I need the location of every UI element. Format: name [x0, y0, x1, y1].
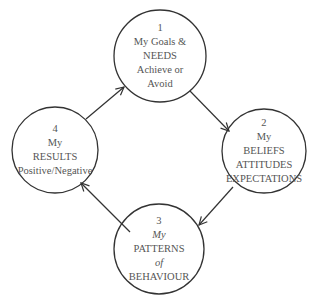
- arrows: [81, 87, 233, 232]
- node-2-label: 2 My BELIEFS ATTITUDES EXPECTATIONS: [226, 116, 302, 186]
- node-number: 2: [226, 116, 302, 130]
- node-line: My: [226, 130, 302, 144]
- node-line: RESULTS: [18, 150, 93, 164]
- node-line: Positive/Negative: [18, 164, 93, 178]
- node-line: NEEDS: [134, 49, 187, 63]
- node-line: BELIEFS: [226, 144, 302, 158]
- node-number: 3: [129, 214, 189, 228]
- arrow-3-to-4: [81, 183, 130, 232]
- node-line: of: [129, 256, 189, 270]
- node-line: EXPECTATIONS: [226, 172, 302, 186]
- node-1-label: 1 My Goals & NEEDS Achieve or Avoid: [134, 21, 187, 91]
- node-line: My Goals &: [134, 35, 187, 49]
- node-line: BEHAVIOUR: [129, 270, 189, 284]
- node-4-label: 4 My RESULTS Positive/Negative: [18, 122, 93, 178]
- node-line: PATTERNS: [129, 242, 189, 256]
- arrow-2-to-3: [199, 187, 233, 225]
- node-line: My: [129, 228, 189, 242]
- node-line: ATTITUDES: [226, 158, 302, 172]
- node-line: My: [18, 136, 93, 150]
- node-number: 4: [18, 122, 93, 136]
- node-3-label: 3 My PATTERNS of BEHAVIOUR: [129, 214, 189, 284]
- arrow-1-to-2: [190, 91, 229, 131]
- node-line: Avoid: [134, 77, 187, 91]
- arrow-4-to-1: [86, 87, 124, 119]
- node-line: Achieve or: [134, 63, 187, 77]
- node-number: 1: [134, 21, 187, 35]
